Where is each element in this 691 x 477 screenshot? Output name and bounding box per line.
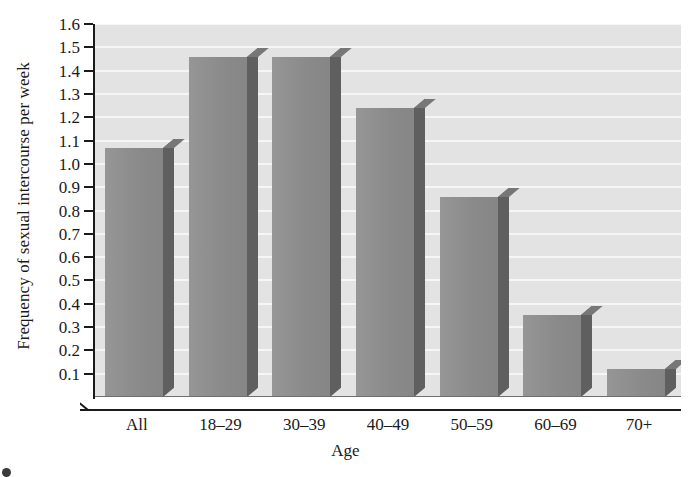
y-tick-mark bbox=[84, 326, 93, 328]
y-tick-mark bbox=[84, 303, 93, 305]
y-tick-label: 1.3 bbox=[36, 85, 80, 102]
x-tick-label: 40–49 bbox=[346, 414, 430, 436]
floor-top-edge bbox=[95, 396, 681, 397]
bar-side-face bbox=[330, 47, 341, 397]
bar bbox=[440, 197, 498, 397]
y-tick-label: 0.5 bbox=[36, 272, 80, 289]
bar-side-face bbox=[163, 138, 174, 397]
gridline bbox=[95, 70, 681, 72]
bar-top-face bbox=[498, 188, 520, 197]
x-axis-title: Age bbox=[0, 441, 691, 461]
bar-front-face bbox=[440, 197, 498, 397]
x-tick-label: 60–69 bbox=[514, 414, 598, 436]
y-tick-mark bbox=[84, 233, 93, 235]
bar-front-face bbox=[105, 148, 163, 397]
y-tick-mark bbox=[84, 46, 93, 48]
bar-side-face bbox=[581, 306, 592, 397]
y-tick-label: 0.1 bbox=[36, 365, 80, 382]
y-tick-mark bbox=[84, 163, 93, 165]
y-tick-mark bbox=[84, 186, 93, 188]
y-axis-tick-labels: 1.61.51.41.31.21.11.00.90.80.70.60.50.40… bbox=[36, 20, 80, 395]
y-tick-label: 1.5 bbox=[36, 39, 80, 56]
bar-top-face bbox=[247, 48, 269, 57]
bar-top-face bbox=[665, 360, 681, 369]
x-tick-label: 70+ bbox=[597, 414, 681, 436]
bar-side-face bbox=[498, 187, 509, 397]
bar-front-face bbox=[356, 108, 414, 397]
y-tick-mark bbox=[84, 373, 93, 375]
y-tick-label: 0.7 bbox=[36, 225, 80, 242]
y-tick-mark bbox=[84, 279, 93, 281]
y-tick-label: 0.2 bbox=[36, 342, 80, 359]
x-tick-label: 50–59 bbox=[430, 414, 514, 436]
y-tick-label: 0.8 bbox=[36, 202, 80, 219]
y-tick-mark bbox=[84, 70, 93, 72]
y-tick-mark bbox=[84, 116, 93, 118]
y-tick-label: 1.6 bbox=[36, 16, 80, 33]
y-tick-label: 1.0 bbox=[36, 155, 80, 172]
bar bbox=[356, 108, 414, 397]
y-tick-label: 0.9 bbox=[36, 179, 80, 196]
y-tick-label: 0.4 bbox=[36, 295, 80, 312]
figure-caption-cropped bbox=[0, 468, 691, 477]
caption-bullet-icon bbox=[2, 468, 11, 477]
gridline bbox=[95, 46, 681, 48]
bar-top-face bbox=[414, 99, 436, 108]
y-tick-mark bbox=[84, 23, 93, 25]
bar bbox=[189, 57, 247, 397]
gridline bbox=[95, 24, 681, 25]
y-tick-label: 1.2 bbox=[36, 109, 80, 126]
plot-area bbox=[95, 24, 681, 397]
bar-front-face bbox=[523, 315, 581, 397]
x-axis-tick-labels: All18–2930–3940–4950–5960–6970+ bbox=[95, 414, 681, 440]
x-axis-line bbox=[80, 409, 681, 411]
y-tick-label: 1.4 bbox=[36, 62, 80, 79]
x-tick-label: 18–29 bbox=[179, 414, 263, 436]
y-tick-mark bbox=[84, 93, 93, 95]
bar-front-face bbox=[607, 369, 665, 397]
x-tick-label: 30–39 bbox=[262, 414, 346, 436]
bar-top-face bbox=[581, 306, 603, 315]
bar-side-face bbox=[414, 99, 425, 397]
figure-bar-chart: Frequency of sexual intercourse per week… bbox=[0, 0, 691, 477]
y-tick-label: 0.3 bbox=[36, 319, 80, 336]
bar bbox=[105, 148, 163, 397]
bar bbox=[607, 369, 665, 397]
y-tick-mark bbox=[84, 349, 93, 351]
bar-front-face bbox=[272, 57, 330, 397]
y-tick-mark bbox=[84, 210, 93, 212]
y-axis-title: Frequency of sexual intercourse per week bbox=[14, 16, 34, 396]
bar-side-face bbox=[247, 47, 258, 397]
gridline bbox=[95, 93, 681, 95]
bar-front-face bbox=[189, 57, 247, 397]
x-tick-label: All bbox=[95, 414, 179, 436]
bar-top-face bbox=[330, 48, 352, 57]
y-tick-mark bbox=[84, 256, 93, 258]
y-tick-mark bbox=[84, 140, 93, 142]
y-tick-label: 1.1 bbox=[36, 132, 80, 149]
bar bbox=[523, 315, 581, 397]
y-tick-label: 0.6 bbox=[36, 249, 80, 266]
bar bbox=[272, 57, 330, 397]
